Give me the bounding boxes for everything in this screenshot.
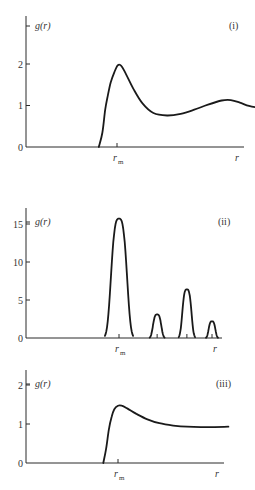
panel-3-xlabel: r	[215, 468, 219, 479]
panel-3-panel-label: (iii)	[216, 378, 231, 390]
panel-3-y-tick-label: 0	[18, 458, 23, 469]
panel-3-rdf-curve	[103, 405, 228, 463]
panel-3-x-tick-label-rm: r	[114, 468, 118, 479]
panel-3-y-tick-label: 2	[18, 380, 23, 391]
panel-2-peak-1	[105, 219, 133, 336]
panel-2-y-tick-label: 0	[18, 333, 23, 344]
panel-2-xlabel: r	[213, 343, 217, 354]
panel-2-peak-3	[179, 289, 195, 337]
panel-1-panel-label: (i)	[229, 20, 238, 32]
panel-2-y-tick-label: 10	[13, 257, 23, 268]
panel-1-xlabel: r	[235, 152, 239, 163]
panel-1-x-tick-label-rm: r	[113, 152, 117, 163]
panel-1-y-tick-label: 1	[18, 100, 23, 111]
panel-2-panel-label: (ii)	[218, 216, 230, 228]
panel-3-ylabel: g(r)	[35, 378, 51, 390]
panel-2-y-tick-label: 15	[13, 219, 23, 230]
panel-2-ylabel: g(r)	[35, 216, 51, 228]
panel-1-rdf-curve	[99, 65, 255, 147]
panel-1-ylabel: g(r)	[35, 20, 51, 32]
panel-3-y-tick-label: 1	[18, 419, 23, 430]
panel-2-x-tick-label-rm: r	[115, 343, 119, 354]
panel-1-y-tick-label: 0	[18, 142, 23, 153]
panel-3-x-tick-label-rm-sub: m	[119, 474, 125, 482]
panel-2-x-tick-label-rm-sub: m	[120, 349, 126, 357]
panel-1-x-tick-label-rm-sub: m	[118, 158, 124, 166]
panel-1-y-tick-label: 2	[18, 59, 23, 70]
rdf-figure: 012g(r)(i)rmr051015g(r)(ii)rmr012g(r)(ii…	[0, 0, 255, 490]
panel-2-y-tick-label: 5	[18, 295, 23, 306]
